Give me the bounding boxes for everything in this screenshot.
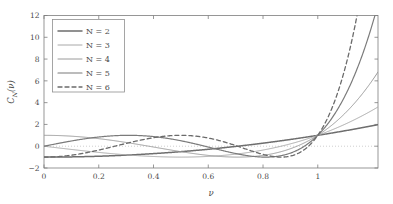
y-axis-title: CN(ν): [6, 80, 18, 104]
legend: N = 2N = 3N = 4N = 5N = 6: [53, 20, 125, 93]
y-axis-tick-labels: −2024681012: [28, 11, 39, 173]
y-tick-label: 8: [35, 55, 40, 64]
y-tick-label: 0: [35, 142, 40, 151]
chart-canvas: 00.20.40.60.81 −2024681012 ν CN(ν) N = 2…: [0, 0, 393, 204]
svg-text:CN(ν): CN(ν): [6, 80, 18, 104]
y-tick-label: 6: [35, 77, 40, 86]
x-axis-tick-labels: 00.20.40.60.81: [42, 172, 321, 181]
y-tick-label: 12: [30, 11, 40, 20]
legend-label-4: N = 5: [86, 69, 110, 78]
y-tick-label: 2: [35, 120, 40, 129]
x-tick-label: 0.2: [93, 172, 105, 181]
x-tick-label: 0.6: [202, 172, 214, 181]
x-tick-label: 0: [42, 172, 47, 181]
legend-label-1: N = 2: [86, 27, 110, 36]
x-axis-title: ν: [208, 188, 213, 198]
y-tick-label: 4: [35, 98, 40, 107]
legend-label-3: N = 4: [86, 55, 110, 64]
x-tick-label: 1: [315, 172, 320, 181]
y-tick-label: 10: [30, 33, 40, 42]
legend-label-2: N = 3: [86, 41, 110, 50]
x-tick-label: 0.4: [148, 172, 160, 181]
chebyshev-figure: 00.20.40.60.81 −2024681012 ν CN(ν) N = 2…: [0, 0, 393, 204]
y-axis-title-arg: (ν): [6, 80, 16, 92]
legend-label-5: N = 6: [86, 83, 110, 92]
x-tick-label: 0.8: [257, 172, 269, 181]
y-tick-label: −2: [28, 164, 39, 173]
